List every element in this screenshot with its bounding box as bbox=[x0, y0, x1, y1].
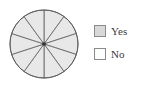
chart-canvas: Yes No bbox=[0, 0, 141, 90]
pie-chart bbox=[9, 9, 79, 79]
legend-item-no[interactable]: No bbox=[94, 47, 140, 61]
pie-center-marker bbox=[42, 42, 45, 45]
legend-label-no: No bbox=[111, 48, 125, 60]
legend-label-yes: Yes bbox=[111, 25, 127, 37]
chart-legend: Yes No bbox=[94, 24, 140, 61]
legend-item-yes[interactable]: Yes bbox=[94, 24, 140, 38]
legend-swatch-yes bbox=[94, 25, 106, 37]
legend-swatch-no bbox=[94, 48, 106, 60]
